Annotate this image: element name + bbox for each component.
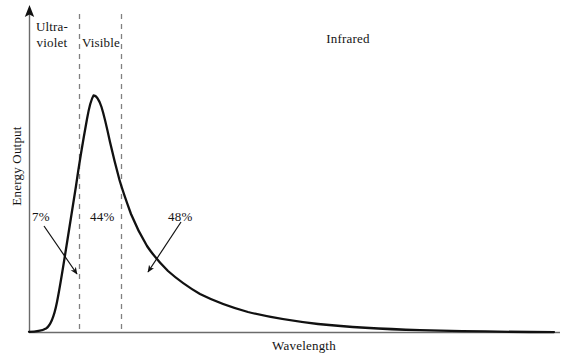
- plot-canvas: [0, 0, 566, 358]
- band-label-ultraviolet-line2: violet: [26, 35, 78, 51]
- percent-label-ultraviolet: 7%: [32, 209, 50, 225]
- band-label-visible: Visible: [80, 35, 122, 51]
- annotation-arrow-infrared: [148, 222, 181, 272]
- x-axis-label: Wavelength: [254, 338, 354, 354]
- band-label-infrared: Infrared: [298, 31, 398, 47]
- percent-label-visible: 44%: [90, 209, 114, 225]
- annotation-arrow-uv: [44, 226, 77, 274]
- spectral-energy-figure: Ultra- violet Visible Infrared 7% 44% 48…: [0, 0, 566, 358]
- percent-label-infrared: 48%: [168, 209, 192, 225]
- band-label-ultraviolet: Ultra- violet: [26, 19, 78, 51]
- y-axis-label: Energy Output: [9, 111, 25, 221]
- band-label-ultraviolet-line1: Ultra-: [26, 19, 78, 35]
